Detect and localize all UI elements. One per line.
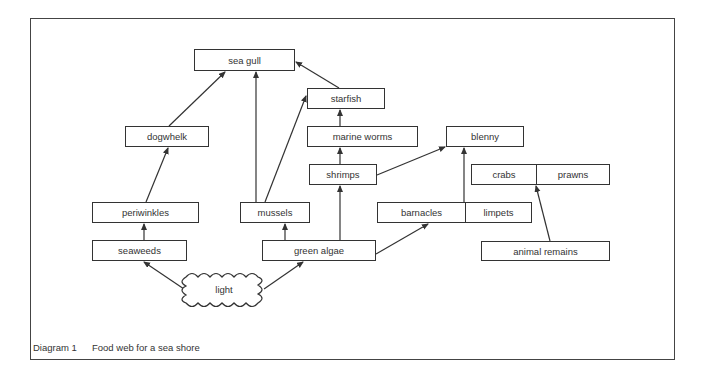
node-crabs: crabs [472,165,536,184]
node-blenny: blenny [446,126,524,147]
node-label: shrimps [326,169,359,180]
node-label: blenny [471,131,499,142]
node-barnacles: barnacles [378,203,465,222]
diagram-caption: Diagram 1Food web for a sea shore [33,342,200,353]
node-crabs-prawns: crabs prawns [471,164,610,185]
node-label: animal remains [513,246,577,257]
node-label: seaweeds [118,245,161,256]
node-label: marine worms [333,131,393,142]
node-limpets: limpets [465,203,531,222]
node-light: light [194,284,254,295]
node-shrimps: shrimps [309,164,377,185]
node-green-algae: green algae [262,240,376,261]
node-label: starfish [331,93,362,104]
node-barnacles-limpets: barnacles limpets [377,202,532,223]
caption-number: Diagram 1 [33,342,92,353]
node-animal-remains: animal remains [481,241,610,261]
node-seaweeds: seaweeds [92,240,187,261]
node-label: dogwhelk [147,131,187,142]
node-label: sea gull [228,55,261,66]
node-mussels: mussels [240,202,310,223]
food-web-arrows [0,0,704,385]
node-label: green algae [294,245,344,256]
node-periwinkles: periwinkles [92,202,199,223]
node-starfish: starfish [307,88,385,109]
node-sea-gull: sea gull [194,49,295,71]
node-marine-worms: marine worms [307,126,418,147]
node-dogwhelk: dogwhelk [125,126,209,147]
node-label: periwinkles [122,207,169,218]
node-label: mussels [258,207,293,218]
caption-title: Food web for a sea shore [92,342,200,353]
node-prawns: prawns [536,165,609,184]
